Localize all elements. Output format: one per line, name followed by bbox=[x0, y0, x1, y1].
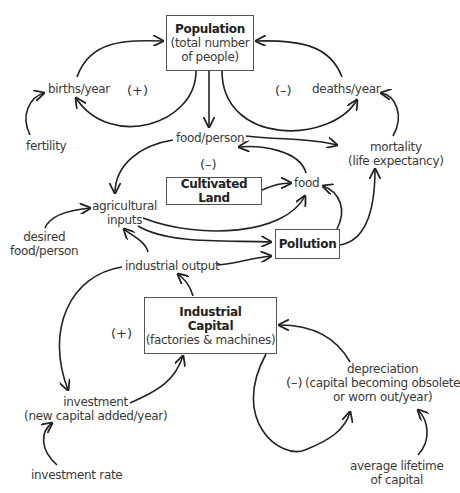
investment-line1: investment bbox=[24, 395, 167, 409]
investment: investment (new capital added/year) bbox=[24, 395, 167, 423]
food-per-person: food/person bbox=[176, 131, 244, 145]
investment-rate: investment rate bbox=[31, 468, 122, 482]
agricultural-inputs: agricultural inputs bbox=[92, 199, 157, 227]
fertility: fertility bbox=[26, 139, 66, 153]
lifetime-line2: of capital bbox=[350, 473, 444, 487]
lifetime-line1: average lifetime bbox=[350, 459, 444, 473]
desired-line1: desired bbox=[10, 230, 78, 244]
population-sub1: (total number bbox=[167, 36, 253, 50]
mortality-line2: (life expectancy) bbox=[348, 154, 444, 168]
food: food bbox=[294, 176, 319, 190]
industrial-capital-title2: Capital bbox=[145, 319, 276, 333]
mortality: mortality (life expectancy) bbox=[348, 140, 444, 168]
cultivated-land-stock: Cultivated Land bbox=[166, 177, 262, 205]
births-per-year: births/year bbox=[48, 82, 110, 96]
population-stock: Population (total number of people) bbox=[166, 15, 254, 71]
depreciation-loop-sign: (–) bbox=[286, 375, 303, 390]
pollution-stock: Pollution bbox=[275, 229, 340, 259]
depreciation-line1: depreciation bbox=[305, 362, 460, 376]
population-title: Population bbox=[167, 22, 253, 36]
population-sub2: of people) bbox=[167, 50, 253, 64]
pollution-title: Pollution bbox=[276, 237, 339, 251]
agricultural-inputs-line2: inputs bbox=[92, 213, 157, 227]
depreciation-line3: or worn out/year) bbox=[305, 390, 460, 404]
food-loop-sign: (–) bbox=[200, 157, 217, 172]
depreciation-line2: (capital becoming obsolete bbox=[305, 376, 460, 390]
industrial-capital-title1: Industrial bbox=[145, 305, 276, 319]
cultivated-land-title: Cultivated Land bbox=[167, 177, 261, 205]
investment-line2: (new capital added/year) bbox=[24, 409, 167, 423]
desired-food-per-person: desired food/person bbox=[10, 230, 78, 258]
mortality-line1: mortality bbox=[348, 140, 444, 154]
average-lifetime-of-capital: average lifetime of capital bbox=[350, 459, 444, 487]
births-loop-sign: (+) bbox=[127, 83, 148, 98]
depreciation: depreciation (capital becoming obsolete … bbox=[305, 362, 460, 404]
desired-line2: food/person bbox=[10, 244, 78, 258]
industrial-capital-sub: (factories & machines) bbox=[145, 333, 276, 347]
agricultural-inputs-line1: agricultural bbox=[92, 199, 157, 213]
industrial-output: industrial output bbox=[125, 259, 219, 273]
deaths-loop-sign: (–) bbox=[275, 83, 292, 98]
investment-loop-sign: (+) bbox=[111, 326, 132, 341]
deaths-per-year: deaths/year bbox=[312, 82, 380, 96]
industrial-capital-stock: Industrial Capital (factories & machines… bbox=[144, 297, 277, 354]
